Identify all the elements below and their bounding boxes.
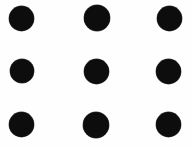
- dot-r2c2: [84, 59, 109, 84]
- dot-r2c3: [156, 59, 181, 84]
- dot-r1c2: [84, 5, 110, 31]
- dot-r1c3: [157, 6, 182, 31]
- dot-r1c1: [9, 6, 34, 31]
- dot-r3c3: [156, 112, 181, 137]
- dot-r3c1: [9, 112, 34, 137]
- dot-r2c1: [10, 59, 34, 83]
- dot-r3c2: [83, 112, 109, 138]
- dot-grid-canvas: Three by three grid of solid black dots: [0, 0, 192, 147]
